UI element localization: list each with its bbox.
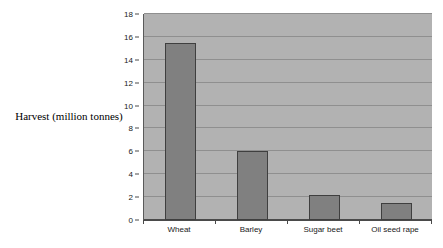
- x-axis-tick-label-group: WheatBarleySugar beetOil seed rape: [143, 224, 431, 238]
- bar: [165, 43, 196, 220]
- y-axis-tick-mark: [135, 105, 139, 106]
- bar: [237, 151, 268, 220]
- y-axis-tick-mark: [135, 220, 139, 221]
- y-axis-tick-label: 18: [124, 10, 133, 19]
- x-axis-tick-label: Barley: [240, 224, 263, 235]
- bar: [309, 195, 340, 220]
- y-axis-tick-mark: [135, 151, 139, 152]
- y-axis-tick-label: 8: [129, 124, 133, 133]
- y-axis-tick-label-group: 024681012141618: [0, 14, 139, 220]
- plot-area: [143, 14, 432, 221]
- x-axis-tick-label: Sugar beet: [303, 224, 342, 235]
- y-axis-tick-mark: [135, 59, 139, 60]
- y-axis-tick-mark: [135, 14, 139, 15]
- y-axis-tick-label: 12: [124, 78, 133, 87]
- y-axis-tick-mark: [135, 174, 139, 175]
- y-axis-tick-label: 14: [124, 55, 133, 64]
- y-axis-tick-mark: [135, 197, 139, 198]
- y-axis-tick-label: 6: [129, 147, 133, 156]
- y-axis-tick-mark: [135, 128, 139, 129]
- y-axis-tick-label: 4: [129, 170, 133, 179]
- y-axis-tick-mark: [135, 82, 139, 83]
- y-axis-tick-label: 2: [129, 193, 133, 202]
- y-axis-tick-label: 10: [124, 101, 133, 110]
- y-axis-tick-mark: [135, 36, 139, 37]
- x-axis-tick-mark: [431, 220, 432, 224]
- bar: [381, 203, 412, 220]
- x-axis-tick-label: Wheat: [167, 224, 190, 235]
- x-axis-tick-label: Oil seed rape: [371, 224, 419, 235]
- bar-chart-figure: Harvest (million tonnes) 024681012141618…: [0, 0, 443, 248]
- bars-layer: [144, 14, 432, 220]
- y-axis-tick-label: 16: [124, 32, 133, 41]
- y-axis-tick-label: 0: [129, 216, 133, 225]
